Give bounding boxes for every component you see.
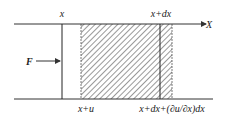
force-label: F — [25, 56, 33, 67]
label-x: x — [59, 8, 65, 19]
axis-label-X: X — [205, 19, 213, 30]
bar-element-diagram: x x+dx X F x+u x+dx+(∂u/∂x)dx — [0, 0, 226, 121]
label-displaced-right: x+dx+(∂u/∂x)dx — [138, 103, 205, 115]
hatched-element — [81, 24, 172, 99]
label-x-plus-u: x+u — [77, 103, 94, 114]
label-x-plus-dx: x+dx — [150, 8, 172, 19]
